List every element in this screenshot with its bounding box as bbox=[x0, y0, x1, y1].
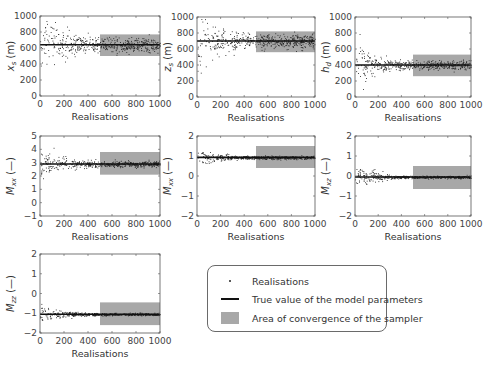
x-tick-label: 400 bbox=[79, 336, 96, 346]
y-tick-label: 200 bbox=[335, 76, 352, 86]
y-tick-label: 0 bbox=[346, 92, 352, 102]
x-tick-label: 600 bbox=[416, 219, 433, 229]
x-axis-label: Realisations bbox=[227, 112, 284, 123]
x-tick-label: 600 bbox=[103, 99, 120, 109]
y-axis-label: Mxz (—) bbox=[320, 157, 333, 195]
y-axis-label: Mxx (—) bbox=[162, 157, 175, 195]
x-tick-label: 600 bbox=[416, 100, 433, 110]
x-tick-label: 400 bbox=[393, 100, 410, 110]
y-tick-label: 1 bbox=[31, 184, 37, 194]
y-axis-label: Mxx (—) bbox=[5, 157, 18, 195]
y-tick-label: 800 bbox=[20, 27, 37, 37]
x-tick-label: 200 bbox=[370, 100, 387, 110]
x-tick-label: 400 bbox=[393, 219, 410, 229]
x-tick-label: 0 bbox=[352, 100, 358, 110]
dot-marker-icon bbox=[208, 280, 252, 282]
y-tick-label: 800 bbox=[335, 28, 352, 38]
axes-frame bbox=[197, 17, 315, 97]
y-tick-label: 600 bbox=[335, 44, 352, 54]
x-tick-label: 1000 bbox=[149, 336, 172, 346]
chart-panel-Mzz: 02004006008001000−2−1012RealisationsMzz … bbox=[5, 249, 172, 359]
x-axis-label: Realisations bbox=[71, 111, 128, 122]
y-tick-label: 0 bbox=[188, 171, 194, 181]
legend-label: Realisations bbox=[252, 276, 309, 287]
x-tick-label: 1000 bbox=[460, 100, 483, 110]
x-tick-label: 800 bbox=[127, 219, 144, 229]
x-axis-label: Realisations bbox=[227, 231, 284, 242]
y-tick-label: 1000 bbox=[329, 12, 352, 22]
x-tick-label: 600 bbox=[103, 219, 120, 229]
y-tick-label: 1 bbox=[188, 151, 194, 161]
x-tick-label: 800 bbox=[127, 99, 144, 109]
chart-panel-Mxz: 02004006008001000−2−1012RealisationsMxz … bbox=[320, 131, 483, 242]
legend-label: Area of convergence of the sampler bbox=[252, 313, 423, 324]
y-tick-label: 400 bbox=[20, 59, 37, 69]
y-tick-label: 600 bbox=[20, 43, 37, 53]
chart-panel-zs: 0200400600800100002004006008001000Realis… bbox=[162, 12, 327, 123]
y-tick-label: 2 bbox=[31, 171, 37, 181]
legend-box: Realisations True value of the model par… bbox=[207, 265, 387, 332]
legend-label: True value of the model parameters bbox=[252, 294, 423, 305]
y-tick-label: −1 bbox=[339, 191, 352, 201]
y-tick-label: 3 bbox=[31, 158, 37, 168]
x-tick-label: 1000 bbox=[460, 219, 483, 229]
x-tick-label: 1000 bbox=[149, 99, 172, 109]
x-tick-label: 0 bbox=[194, 100, 200, 110]
x-axis-label: Realisations bbox=[71, 348, 128, 359]
x-tick-label: 1000 bbox=[304, 100, 327, 110]
y-tick-label: −1 bbox=[24, 211, 37, 221]
x-tick-label: 800 bbox=[439, 100, 456, 110]
y-tick-label: −2 bbox=[339, 211, 352, 221]
x-tick-label: 800 bbox=[283, 100, 300, 110]
y-tick-label: 400 bbox=[177, 60, 194, 70]
x-tick-label: 400 bbox=[79, 219, 96, 229]
legend-item-true-value: True value of the model parameters bbox=[208, 291, 423, 307]
y-tick-label: 0 bbox=[346, 171, 352, 181]
x-tick-label: 600 bbox=[259, 219, 276, 229]
x-axis-label: Realisations bbox=[384, 112, 441, 123]
x-tick-label: 200 bbox=[55, 99, 72, 109]
y-tick-label: 0 bbox=[31, 198, 37, 208]
y-tick-label: −2 bbox=[24, 328, 37, 338]
x-tick-label: 400 bbox=[236, 219, 253, 229]
x-tick-label: 600 bbox=[103, 336, 120, 346]
x-tick-label: 0 bbox=[37, 219, 43, 229]
x-tick-label: 600 bbox=[259, 100, 276, 110]
x-axis-label: Realisations bbox=[71, 231, 128, 242]
y-tick-label: 1 bbox=[31, 269, 37, 279]
x-tick-label: 1000 bbox=[149, 219, 172, 229]
y-tick-label: 1000 bbox=[14, 11, 37, 21]
y-tick-label: 2 bbox=[31, 249, 37, 259]
rect-marker-icon bbox=[208, 312, 252, 324]
y-tick-label: 1000 bbox=[171, 12, 194, 22]
x-tick-label: 200 bbox=[212, 100, 229, 110]
x-axis-label: Realisations bbox=[384, 231, 441, 242]
y-tick-label: 600 bbox=[177, 44, 194, 54]
y-tick-label: 0 bbox=[31, 289, 37, 299]
y-tick-label: −1 bbox=[181, 191, 194, 201]
x-tick-label: 200 bbox=[55, 219, 72, 229]
y-tick-label: 4 bbox=[31, 144, 37, 154]
y-axis-label: xs (m) bbox=[5, 41, 18, 72]
y-tick-label: 200 bbox=[20, 75, 37, 85]
line-marker-icon bbox=[208, 298, 252, 300]
x-tick-label: 0 bbox=[352, 219, 358, 229]
x-tick-label: 400 bbox=[79, 99, 96, 109]
x-tick-label: 0 bbox=[37, 336, 43, 346]
chart-panel-Mxx: 02004006008001000−1012345RealisationsMxx… bbox=[5, 131, 172, 242]
y-tick-label: −2 bbox=[181, 211, 194, 221]
x-tick-label: 800 bbox=[127, 336, 144, 346]
x-tick-label: 200 bbox=[370, 219, 387, 229]
y-tick-label: 0 bbox=[188, 92, 194, 102]
x-tick-label: 0 bbox=[194, 219, 200, 229]
chart-panel-Mxx2: 02004006008001000−2−1012RealisationsMxx … bbox=[162, 131, 327, 242]
y-tick-label: 1 bbox=[346, 151, 352, 161]
x-tick-label: 400 bbox=[236, 100, 253, 110]
y-tick-label: 2 bbox=[346, 131, 352, 141]
chart-panel-xs: 0200400600800100002004006008001000Realis… bbox=[5, 11, 172, 122]
y-axis-label: hd (m) bbox=[320, 41, 333, 73]
y-tick-label: 400 bbox=[335, 60, 352, 70]
x-tick-label: 1000 bbox=[304, 219, 327, 229]
legend-item-convergence-area: Area of convergence of the sampler bbox=[208, 310, 423, 326]
axes-frame bbox=[40, 136, 160, 216]
